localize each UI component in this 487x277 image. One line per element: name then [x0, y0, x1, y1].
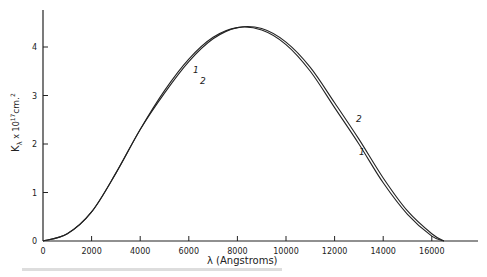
x-tick-label: 6000: [179, 247, 199, 256]
y-tick-label: 4: [32, 43, 37, 52]
y-tick-label: 1: [32, 189, 37, 198]
axes: 0200040006000800010000120001400016000012…: [32, 10, 478, 256]
y-title-unit-exp: 2: [9, 93, 16, 97]
x-tick-label: 0: [40, 247, 45, 256]
y-title-unit: cm.: [11, 97, 21, 114]
y-tick-label: 3: [32, 92, 37, 101]
svg-text:Kλ x 1017cm.2: Kλ x 1017cm.2: [9, 93, 24, 152]
y-title-x10: x 10: [12, 121, 21, 141]
curve-2: [43, 27, 444, 241]
curve-label-1-falling: 1: [359, 147, 365, 157]
curve-1: [43, 27, 444, 241]
y-title-exp: 17: [9, 113, 16, 121]
chart: 0200040006000800010000120001400016000012…: [0, 0, 487, 277]
y-tick-label: 2: [32, 140, 37, 149]
x-axis-title: λ (Angstroms): [207, 255, 278, 266]
curve-label-2-rising: 2: [200, 76, 206, 86]
x-tick-label: 2000: [81, 247, 101, 256]
curve-label-2-falling: 2: [356, 114, 362, 124]
x-tick-label: 14000: [370, 247, 395, 256]
y-axis-title: Kλ x 1017cm.2: [9, 93, 24, 152]
caption-fragment: [22, 268, 282, 271]
x-tick-label: 16000: [419, 247, 444, 256]
y-tick-label: 0: [32, 237, 37, 246]
x-tick-label: 12000: [322, 247, 347, 256]
curve-label-1-rising: 1: [193, 65, 199, 75]
curves: [43, 27, 444, 241]
x-tick-label: 4000: [130, 247, 150, 256]
